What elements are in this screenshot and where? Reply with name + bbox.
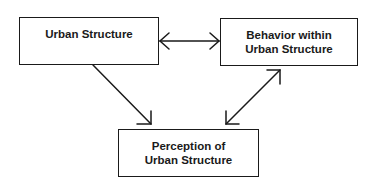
node-label-line-2: Urban Structure: [145, 153, 233, 167]
node-label: Urban Structure: [45, 27, 133, 41]
arrow-urban-perception: [93, 65, 151, 124]
node-label-line-2: Urban Structure: [245, 42, 333, 56]
node-behavior-within-urban-structure: Behavior within Urban Structure: [220, 18, 358, 66]
node-label-line-1: Perception of: [152, 139, 225, 153]
arrow-behavior-perception: [226, 70, 280, 124]
arrow-urban-behavior: [160, 33, 219, 49]
node-perception-of-urban-structure: Perception of Urban Structure: [118, 129, 259, 177]
diagram-canvas: Urban Structure Behavior within Urban St…: [0, 0, 376, 189]
node-urban-structure: Urban Structure: [19, 17, 159, 65]
node-label-line-1: Behavior within: [246, 28, 332, 42]
